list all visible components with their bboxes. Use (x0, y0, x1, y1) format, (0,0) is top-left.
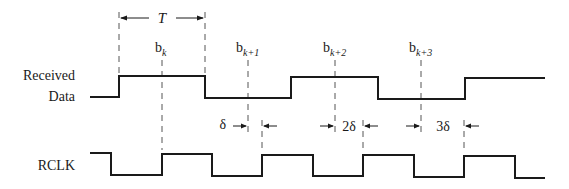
sample-lines (162, 60, 464, 152)
period-bracket: T (119, 10, 205, 76)
rclk-label: RCLK (38, 158, 75, 173)
offset-2delta-label: 2δ (342, 119, 356, 134)
bit-label-k: bk (155, 40, 167, 58)
bit-label-k1: bk+1 (236, 40, 259, 58)
received-data-label-line1: Received (23, 68, 75, 83)
offset-3delta-label: 3δ (436, 119, 450, 134)
offset-delta-label: δ (219, 117, 226, 132)
bit-labels: bk bk+1 bk+2 bk+3 (155, 40, 432, 58)
period-label: T (158, 10, 168, 26)
timing-diagram: T bk bk+1 bk+2 bk+3 δ 2δ 3δ (0, 0, 569, 189)
bit-label-k3: bk+3 (409, 40, 432, 58)
rclk-waveform (90, 153, 545, 178)
received-data-label-line2: Data (49, 89, 76, 104)
bit-label-k2: bk+2 (323, 40, 346, 58)
received-data-waveform (90, 76, 545, 99)
offset-annotations: δ 2δ 3δ (219, 117, 479, 134)
